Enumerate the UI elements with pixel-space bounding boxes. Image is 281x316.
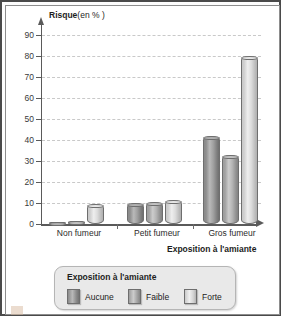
bar-cap (165, 200, 182, 204)
legend-label-aucune: Aucune (85, 292, 114, 302)
legend-item-forte[interactable]: Forte (184, 289, 222, 304)
legend-swatch-aucune (67, 289, 80, 304)
legend-item-aucune[interactable]: Aucune (67, 289, 114, 304)
legend-swatch-forte (184, 289, 197, 304)
bar-non-fumeur-faible[interactable] (68, 221, 85, 224)
gridline-40 (42, 140, 261, 141)
y-tick-30 (36, 161, 41, 162)
y-axis-title: Risque(en % ) (49, 10, 105, 20)
bar-cap (222, 155, 239, 159)
gridline-70 (42, 77, 261, 78)
bar-petit-fumeur-forte[interactable] (165, 200, 182, 224)
figure-frame: Risque(en % ) 0 10 20 30 40 50 (0, 0, 281, 316)
y-tick-0 (36, 224, 41, 225)
legend-swatch-faible (128, 289, 141, 304)
bar-cap (87, 204, 104, 208)
y-tick-60 (36, 98, 41, 99)
y-tick-90 (36, 35, 41, 36)
gridline-80 (42, 56, 261, 57)
group-separator-2 (193, 224, 194, 229)
y-tick-10 (36, 203, 41, 204)
y-tick-label-60: 60 (25, 94, 34, 103)
bar-non-fumeur-aucune[interactable] (49, 222, 66, 224)
y-tick-label-50: 50 (25, 115, 34, 124)
y-axis-title-unit: (en % ) (77, 10, 104, 20)
legend-label-forte: Forte (202, 292, 222, 302)
y-tick-label-40: 40 (25, 136, 34, 145)
bar-cap (49, 222, 66, 226)
y-tick-label-30: 30 (25, 157, 34, 166)
y-tick-80 (36, 56, 41, 57)
bar-gros-fumeur-aucune[interactable] (203, 136, 220, 224)
bar-cap (68, 221, 85, 225)
bar-cap (127, 203, 144, 207)
legend-label-faible: Faible (146, 292, 169, 302)
x-axis-title: Exposition à l'amiante (167, 244, 256, 254)
chart-plot-area: Risque(en % ) 0 10 20 30 40 50 (41, 24, 263, 224)
bar-cap (203, 136, 220, 140)
y-axis-title-bold: Risque (49, 10, 77, 20)
y-tick-label-0: 0 (29, 220, 34, 229)
bar-gros-fumeur-faible[interactable] (222, 155, 239, 224)
y-tick-70 (36, 77, 41, 78)
gridline-50 (42, 119, 261, 120)
chart-legend: Exposition à l'amiante Aucune Faible For… (54, 266, 236, 310)
y-tick-50 (36, 119, 41, 120)
bar-gros-fumeur-forte[interactable] (241, 56, 258, 224)
legend-title: Exposition à l'amiante (67, 272, 156, 282)
bar-petit-fumeur-aucune[interactable] (127, 203, 144, 224)
y-axis-arrow-icon (38, 17, 44, 25)
bar-cap (146, 202, 163, 206)
scan-smudge-corner (11, 306, 23, 315)
y-tick-label-70: 70 (25, 73, 34, 82)
x-tick-label-gros-fumeur: Gros fumeur (208, 228, 255, 238)
bar-non-fumeur-forte[interactable] (87, 204, 104, 224)
gridline-90 (42, 35, 261, 36)
y-tick-20 (36, 182, 41, 183)
x-tick-label-petit-fumeur: Petit fumeur (134, 228, 180, 238)
x-tick-label-non-fumeur: Non fumeur (57, 228, 101, 238)
group-separator-1 (117, 224, 118, 229)
y-tick-label-80: 80 (25, 52, 34, 61)
y-tick-label-20: 20 (25, 178, 34, 187)
y-tick-label-90: 90 (25, 31, 34, 40)
bar-petit-fumeur-faible[interactable] (146, 202, 163, 224)
y-axis-line (41, 24, 42, 226)
legend-item-faible[interactable]: Faible (128, 289, 169, 304)
y-tick-label-10: 10 (25, 199, 34, 208)
figure-inner-border: Risque(en % ) 0 10 20 30 40 50 (5, 5, 280, 315)
bar-cap (241, 56, 258, 60)
gridline-60 (42, 98, 261, 99)
y-tick-40 (36, 140, 41, 141)
